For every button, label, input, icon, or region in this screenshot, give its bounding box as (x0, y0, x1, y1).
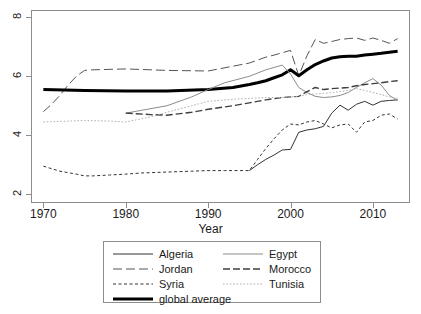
legend-label: Jordan (159, 263, 193, 275)
legend-label: Tunisia (269, 278, 304, 290)
legend-item[interactable]: Morocco (222, 262, 311, 276)
series-line (43, 114, 397, 176)
x-tick-label: 1970 (18, 207, 68, 221)
legend-label: Morocco (269, 263, 311, 275)
y-tick-mark (26, 76, 31, 77)
legend-item[interactable]: Algeria (112, 247, 193, 261)
y-tick-mark (26, 135, 31, 136)
legend-label: Egypt (269, 248, 297, 260)
legend-swatch-icon (222, 278, 264, 290)
x-tick-label: 1980 (101, 207, 151, 221)
legend-items: AlgeriaEgyptJordanMoroccoSyriaTunisiaglo… (104, 242, 320, 302)
chart-figure: 2468 19701980199020002010 Year AlgeriaEg… (0, 0, 421, 314)
legend-item[interactable]: global average (112, 292, 231, 306)
plot-area (31, 10, 410, 203)
x-tick-label: 2010 (348, 207, 398, 221)
legend-item[interactable]: Egypt (222, 247, 297, 261)
x-tick-label: 2000 (266, 207, 316, 221)
legend-label: Algeria (159, 248, 193, 260)
y-tick-label: 4 (11, 127, 23, 141)
legend-label: global average (159, 293, 231, 305)
legend-item[interactable]: Syria (112, 277, 184, 291)
x-axis-title: Year (0, 222, 421, 236)
y-tick-mark (26, 17, 31, 18)
series-line (43, 51, 397, 91)
y-tick-mark (26, 194, 31, 195)
legend-swatch-icon (112, 293, 154, 305)
legend-label: Syria (159, 278, 184, 290)
chart-legend: AlgeriaEgyptJordanMoroccoSyriaTunisiaglo… (103, 241, 321, 303)
legend-swatch-icon (222, 263, 264, 275)
legend-swatch-icon (112, 278, 154, 290)
legend-swatch-icon (112, 248, 154, 260)
series-line (249, 100, 397, 171)
y-tick-label: 8 (11, 9, 23, 23)
series-layer (31, 10, 410, 203)
y-tick-label: 2 (11, 186, 23, 200)
legend-swatch-icon (222, 248, 264, 260)
legend-swatch-icon (112, 263, 154, 275)
y-tick-label: 6 (11, 68, 23, 82)
legend-item[interactable]: Jordan (112, 262, 193, 276)
x-tick-label: 1990 (183, 207, 233, 221)
series-line (43, 38, 397, 112)
legend-item[interactable]: Tunisia (222, 277, 304, 291)
